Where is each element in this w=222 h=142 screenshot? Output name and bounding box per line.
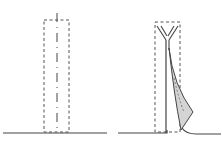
folding-diagram: [0, 0, 222, 142]
y-fold: [157, 26, 178, 40]
diagram-canvas: Two-step folding illustration: [0, 0, 222, 142]
shaded-flap: [169, 48, 193, 130]
right-panel: [118, 22, 221, 134]
right-baseline-right: [182, 128, 221, 134]
right-dashed-outline: [155, 22, 180, 132]
left-panel: [3, 13, 107, 133]
